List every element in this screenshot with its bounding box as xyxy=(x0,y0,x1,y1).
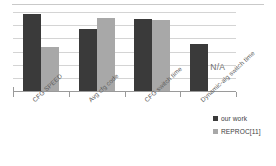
plot-area: N/A xyxy=(13,12,236,92)
bar[interactable] xyxy=(134,19,152,92)
bar[interactable] xyxy=(23,14,41,92)
na-annotation: N/A xyxy=(210,62,225,72)
bar-groups: N/A xyxy=(13,12,236,92)
x-axis-category-labels: CFG SPEEDAvg cfg codeCFG switch timeDyna… xyxy=(13,92,236,166)
legend-swatch-icon xyxy=(213,116,218,121)
chart-legend: our workREPROC[11] xyxy=(213,112,275,138)
bar-chart-figure: N/A CFG SPEEDAvg cfg codeCFG switch time… xyxy=(0,0,276,166)
legend-swatch-icon xyxy=(213,129,218,134)
legend-item[interactable]: REPROC[11] xyxy=(213,125,275,138)
axis-tick xyxy=(236,92,237,97)
bar[interactable] xyxy=(190,44,208,92)
legend-label: REPROC[11] xyxy=(221,128,261,135)
legend-label: our work xyxy=(221,115,247,122)
legend-item[interactable]: our work xyxy=(213,112,275,125)
bar[interactable] xyxy=(79,29,97,92)
top-frame-rule xyxy=(12,4,264,5)
